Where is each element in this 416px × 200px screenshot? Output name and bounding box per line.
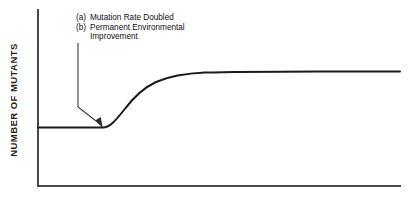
annotation-line: (a) Mutation Rate Doubled	[76, 13, 236, 23]
annotation-line: Improvement	[76, 32, 236, 42]
annotation-label: Permanent Environmental	[90, 23, 236, 33]
annotation-line: (b) Permanent Environmental	[76, 23, 236, 33]
mutation-rate-figure: NUMBER OF MUTANTS (a) Mutation Rate Doub…	[0, 0, 416, 200]
annotation-label: Improvement	[90, 32, 236, 42]
annotation-marker: (a)	[76, 13, 90, 23]
annotation-leader-line	[78, 43, 101, 125]
annotation-text-block: (a) Mutation Rate Doubled (b) Permanent …	[76, 13, 236, 42]
mutant-population-curve	[38, 71, 400, 127]
annotation-marker: (b)	[76, 23, 90, 33]
annotation-label: Mutation Rate Doubled	[90, 13, 236, 23]
